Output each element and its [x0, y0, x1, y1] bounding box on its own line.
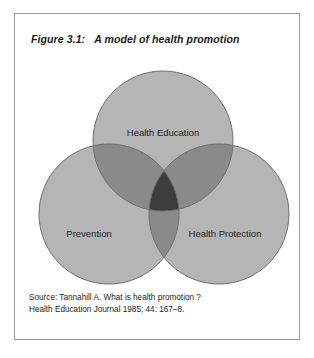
venn-label-prevention: Prevention — [66, 228, 111, 239]
source-line-2: Health Education Journal 1985; 44: 167–8… — [29, 304, 201, 316]
venn-label-health-protection: Health Protection — [189, 228, 262, 239]
figure-number: Figure 3.1: — [31, 33, 85, 45]
figure-frame: Figure 3.1:A model of health promotion — [14, 13, 300, 340]
source-citation: Source: Tannahill A. What is health prom… — [29, 292, 201, 315]
figure-title-text: A model of health promotion — [94, 33, 239, 45]
source-line-1: Source: Tannahill A. What is health prom… — [29, 292, 201, 304]
venn-diagram: Health Education Prevention Health Prote… — [15, 59, 299, 294]
venn-label-health-education: Health Education — [127, 127, 199, 138]
figure-title: Figure 3.1:A model of health promotion — [31, 33, 239, 45]
venn-diagram-svg — [15, 59, 299, 294]
